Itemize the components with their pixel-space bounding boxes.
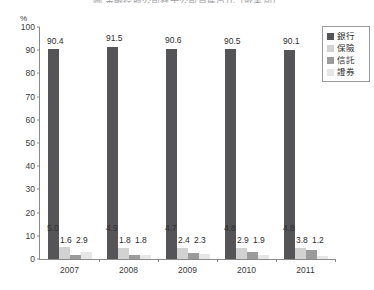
chart-legend: 銀行保險信託證券 [322,26,370,82]
data-label-insurance: 4.7 [165,224,177,233]
y-axis-tick-label: 30 [26,185,35,194]
y-axis-tick-label: 50 [26,139,35,148]
legend-swatch-icon [327,69,334,76]
legend-swatch-icon [327,33,334,40]
y-axis-tick-label: 60 [26,116,35,125]
bar-group: 90.54.82.91.9 [217,27,276,259]
bar-保險 [118,248,129,259]
legend-swatch-icon [327,45,334,52]
data-label-insurance: 4.8 [283,224,295,233]
data-label-banking: 90.5 [224,37,241,46]
bar-保險 [59,247,70,259]
x-axis-tick-label: 2011 [296,266,314,275]
y-axis-tick-label: 90 [26,46,35,55]
bar-chart-figure: 圖 金融控股公司各子公司資產占比（依業別） % 1009080706050403… [0,0,374,290]
y-axis-tick-label: 0 [30,255,35,264]
legend-item-銀行[interactable]: 銀行 [327,30,366,42]
legend-label: 保險 [337,44,355,53]
y-axis-tick-label: 10 [26,232,35,241]
data-label-trust: 2.9 [237,236,249,245]
x-axis-tick-mark [335,259,336,262]
bar-信託 [306,250,317,259]
legend-label: 證券 [337,68,355,77]
legend-label: 信託 [337,56,355,65]
data-label-securities: 1.8 [135,236,147,245]
bar-證券 [81,252,92,259]
data-label-trust: 2.4 [178,236,190,245]
legend-item-保險[interactable]: 保險 [327,42,366,54]
data-label-banking: 90.6 [165,36,182,45]
data-label-trust: 3.8 [296,236,308,245]
bar-證券 [140,255,151,259]
data-label-securities: 1.2 [312,236,324,245]
data-label-insurance: 4.8 [224,224,236,233]
data-label-insurance: 5.0 [47,224,59,233]
bar-證券 [199,254,210,259]
y-axis-tick-label: 100 [21,23,35,32]
bar-保險 [177,248,188,259]
bar-信託 [70,255,81,259]
x-axis-tick-mark [158,259,159,262]
bar-信託 [247,252,258,259]
bar-保險 [236,248,247,259]
x-axis-tick-mark [276,259,277,262]
bar-信託 [129,255,140,259]
legend-swatch-icon [327,57,334,64]
y-axis-tick-label: 40 [26,162,35,171]
x-axis-tick-label: 2009 [178,266,197,275]
data-label-banking: 90.1 [283,37,300,46]
data-label-insurance: 4.9 [106,224,118,233]
x-axis-tick-mark [217,259,218,262]
chart-title: 圖 金融控股公司各子公司資產占比（依業別） [0,0,374,3]
bar-group: 90.45.01.62.9 [40,27,99,259]
data-label-securities: 1.9 [253,236,265,245]
x-axis-tick-label: 2008 [119,266,138,275]
bar-證券 [258,255,269,259]
x-axis-tick-label: 2007 [60,266,79,275]
y-axis-tick-label: 70 [26,92,35,101]
data-label-securities: 2.9 [76,236,88,245]
legend-label: 銀行 [337,32,355,41]
data-label-trust: 1.8 [119,236,131,245]
x-axis-tick-mark [99,259,100,262]
bar-信託 [188,253,199,259]
data-label-banking: 91.5 [106,34,123,43]
bar-保險 [295,248,306,259]
legend-item-信託[interactable]: 信託 [327,54,366,66]
bar-group: 91.54.91.81.8 [99,27,158,259]
data-label-banking: 90.4 [47,37,64,46]
bar-證券 [317,256,328,259]
data-label-trust: 1.6 [60,236,72,245]
y-axis-tick-label: 20 [26,208,35,217]
data-label-securities: 2.3 [194,236,206,245]
x-axis-tick-label: 2010 [237,266,256,275]
bar-group: 90.64.72.42.3 [158,27,217,259]
plot-area: 100908070605040302010090.45.01.62.920079… [39,27,335,260]
y-axis-tick-label: 80 [26,69,35,78]
legend-item-證券[interactable]: 證券 [327,66,366,78]
